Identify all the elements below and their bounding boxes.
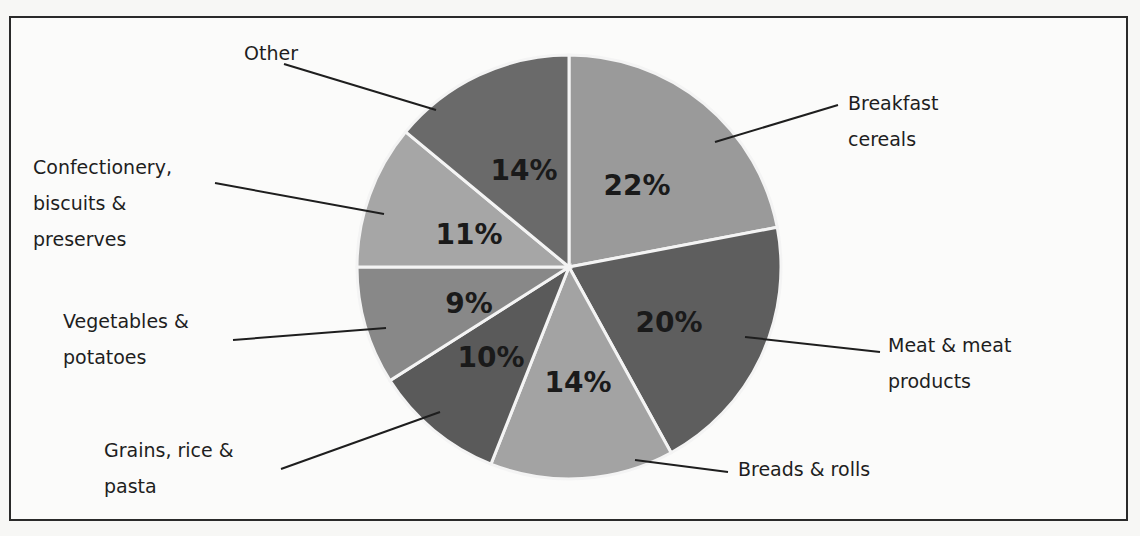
leader-line <box>284 64 436 110</box>
percent-label: 10% <box>457 341 524 374</box>
leader-line <box>635 460 728 472</box>
category-label: Grains, rice &pasta <box>104 439 234 497</box>
leader-line <box>215 183 384 214</box>
category-label: Breakfastcereals <box>848 92 938 150</box>
category-label: Other <box>244 42 298 64</box>
category-label: Vegetables &potatoes <box>63 310 189 368</box>
category-label: Confectionery,biscuits &preserves <box>33 156 172 250</box>
percent-label: 14% <box>490 154 557 187</box>
percent-label: 20% <box>635 306 702 339</box>
category-label: Breads & rolls <box>738 458 870 480</box>
percent-label: 22% <box>603 169 670 202</box>
leader-line <box>715 105 838 142</box>
pie-slices <box>357 55 781 479</box>
leader-line <box>281 412 440 469</box>
percent-label: 9% <box>445 287 493 320</box>
category-label: Meat & meatproducts <box>888 334 1011 392</box>
pie-chart: 22%20%14%10%9%11%14% BreakfastcerealsMea… <box>0 0 1140 536</box>
leader-line <box>233 328 386 340</box>
percent-label: 14% <box>544 366 611 399</box>
percent-label: 11% <box>435 218 502 251</box>
